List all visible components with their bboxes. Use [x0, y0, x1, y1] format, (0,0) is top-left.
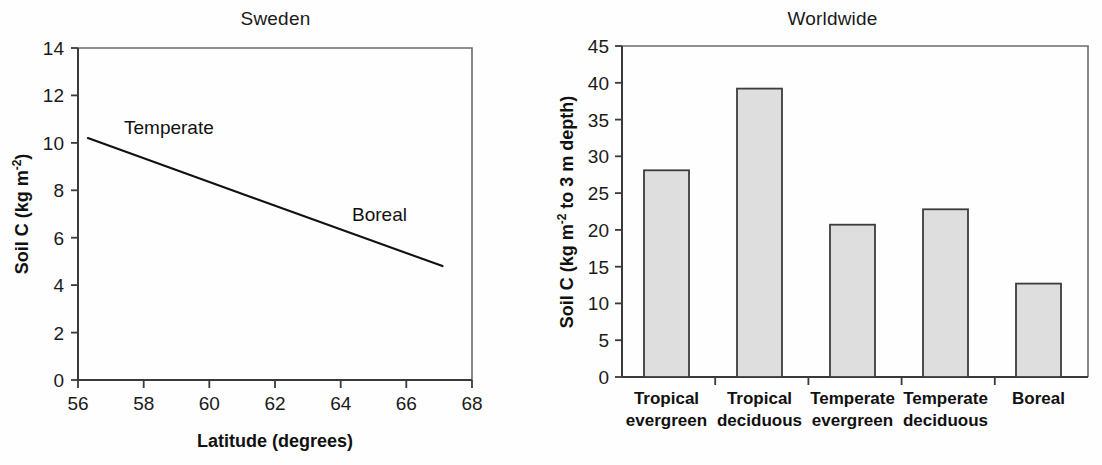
y-tick-label-10: 10	[43, 133, 64, 154]
category-label-line1: Tropical	[727, 389, 792, 408]
y-ticks-sweden	[71, 48, 78, 380]
category-label-line1: Temperate	[903, 389, 988, 408]
x-tick-label-68: 68	[461, 393, 482, 414]
x-axis-title-sweden: Latitude (degrees)	[197, 431, 353, 451]
bar-tropical-deciduous	[737, 89, 782, 377]
worldwide-bar-chart: 0 5 10 15 20 25 30 35 40 45	[551, 0, 1102, 465]
y-tick-label-40: 40	[588, 73, 609, 94]
y-tick-label-0: 0	[53, 370, 64, 391]
x-category-ticks-worldwide	[715, 377, 995, 385]
y-tick-label-10: 10	[588, 293, 609, 314]
y-tick-label-6: 6	[53, 228, 64, 249]
category-label-tropical-deciduous: Tropical deciduous	[717, 389, 802, 430]
bar-boreal	[1016, 284, 1061, 377]
category-label-temperate-evergreen: Temperate evergreen	[810, 389, 895, 430]
y-axis-title-sweden: Soil C (kg m-2)	[10, 154, 32, 275]
category-label-line2: deciduous	[717, 411, 802, 430]
sweden-line-chart: 0 2 4 6 8 10 12 14 56 58 60 62 64 66	[0, 0, 551, 465]
y-tick-label-45: 45	[588, 36, 609, 57]
x-ticks-sweden	[78, 380, 472, 388]
y-tick-label-5: 5	[598, 330, 609, 351]
category-label-tropical-evergreen: Tropical evergreen	[626, 389, 707, 430]
y-tick-label-2: 2	[53, 323, 64, 344]
y-axis-title-worldwide: Soil C (kg m-2 to 3 m depth)	[555, 96, 577, 329]
x-tick-label-56: 56	[67, 393, 88, 414]
y-tick-label-0: 0	[598, 367, 609, 388]
panel-worldwide: Worldwide 0 5 10 15 20	[551, 0, 1102, 465]
y-tick-label-14: 14	[43, 38, 65, 59]
y-tick-label-15: 15	[588, 257, 609, 278]
x-tick-label-64: 64	[330, 393, 352, 414]
y-tick-label-25: 25	[588, 183, 609, 204]
annotation-temperate: Temperate	[124, 117, 214, 138]
category-label-temperate-deciduous: Temperate deciduous	[903, 389, 988, 430]
y-tick-label-30: 30	[588, 146, 609, 167]
y-tick-label-4: 4	[53, 275, 64, 296]
category-label-line1: Boreal	[1012, 389, 1065, 408]
bar-temperate-deciduous	[923, 209, 968, 377]
y-tick-label-20: 20	[588, 220, 609, 241]
soil-c-latitude-trendline	[88, 138, 443, 266]
category-label-line1: Tropical	[634, 389, 699, 408]
bar-temperate-evergreen	[830, 225, 875, 377]
category-label-boreal: Boreal	[1012, 389, 1065, 408]
plot-frame-sweden	[78, 48, 472, 380]
category-label-line1: Temperate	[810, 389, 895, 408]
panel-sweden: Sweden 0 2 4 6 8	[0, 0, 551, 465]
figure-container: Sweden 0 2 4 6 8	[0, 0, 1102, 465]
y-tick-label-35: 35	[588, 110, 609, 131]
bar-tropical-evergreen	[644, 170, 689, 377]
x-tick-label-66: 66	[396, 393, 417, 414]
category-label-line2: evergreen	[626, 411, 707, 430]
category-label-line2: deciduous	[903, 411, 988, 430]
x-tick-label-60: 60	[199, 393, 220, 414]
y-ticks-worldwide	[615, 46, 622, 377]
y-tick-label-12: 12	[43, 85, 64, 106]
x-tick-label-58: 58	[133, 393, 154, 414]
annotation-boreal: Boreal	[352, 204, 407, 225]
category-label-line2: evergreen	[812, 411, 893, 430]
x-tick-label-62: 62	[264, 393, 285, 414]
y-tick-label-8: 8	[53, 180, 64, 201]
